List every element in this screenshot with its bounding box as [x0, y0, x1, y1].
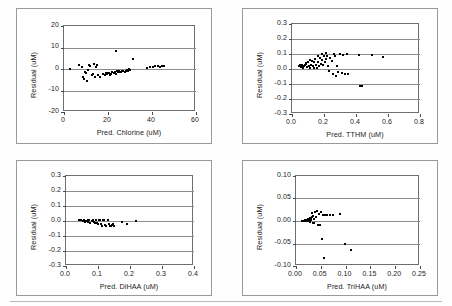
gridline: [292, 39, 420, 40]
data-point: [101, 225, 103, 227]
data-point: [327, 65, 329, 67]
x-tick-label: 0: [47, 116, 79, 123]
y-tick-mark: [63, 206, 66, 207]
figure-sheet: 20100-10-200204060Pred. Chlorine (uM)Res…: [0, 0, 452, 306]
data-point: [350, 249, 352, 251]
panel-trihaa: 0.100.050.00-0.05-0.100.000.050.100.150.…: [242, 160, 438, 296]
data-point: [321, 238, 323, 240]
data-point: [341, 72, 343, 74]
data-point: [323, 55, 325, 57]
x-tick-label: 40: [135, 116, 167, 123]
data-point: [83, 78, 85, 80]
data-point: [313, 222, 315, 224]
gridline: [296, 244, 420, 245]
y-tick-mark: [289, 39, 292, 40]
data-point: [81, 66, 83, 68]
data-point: [335, 75, 337, 77]
data-point: [163, 65, 165, 67]
data-point: [95, 66, 97, 68]
y-tick-mark: [293, 176, 296, 177]
gridline: [66, 206, 194, 207]
x-tick-mark: [196, 112, 197, 115]
data-point: [129, 69, 131, 71]
y-tick-mark: [289, 24, 292, 25]
data-point: [325, 58, 327, 60]
gridline: [66, 191, 194, 192]
gridline: [64, 48, 196, 49]
y-tick-label: 20: [23, 21, 59, 28]
y-tick-mark: [289, 84, 292, 85]
data-point: [339, 53, 341, 55]
y-tick-mark: [293, 244, 296, 245]
y-tick-mark: [293, 221, 296, 222]
data-point: [314, 58, 316, 60]
x-tick-mark: [420, 114, 421, 117]
plot-area: [291, 23, 419, 113]
y-tick-mark: [63, 251, 66, 252]
y-axis-label: Residual (uM): [29, 204, 38, 250]
data-point: [97, 223, 99, 225]
data-point: [89, 222, 91, 224]
data-point: [326, 55, 328, 57]
data-point: [85, 72, 87, 74]
data-point: [337, 71, 339, 73]
y-tick-mark: [61, 48, 64, 49]
y-tick-label: 0.05: [255, 193, 291, 200]
data-point: [324, 61, 326, 63]
data-point: [146, 67, 148, 69]
data-point: [311, 212, 313, 214]
data-point: [339, 213, 341, 215]
data-point: [105, 225, 107, 227]
y-tick-label: -0.3: [25, 261, 61, 268]
data-point: [115, 73, 117, 75]
panel-dihaa: 0.30.20.10.0-0.1-0.2-0.30.00.10.20.30.4P…: [16, 160, 212, 296]
plot-area: [63, 25, 195, 111]
data-point: [328, 70, 330, 72]
data-point: [313, 67, 315, 69]
x-tick-label: 0.3: [145, 270, 177, 277]
x-tick-mark: [356, 114, 357, 117]
y-tick-label: -0.10: [255, 261, 291, 268]
y-tick-mark: [289, 54, 292, 55]
panel-chlorine: 20100-10-200204060Pred. Chlorine (uM)Res…: [16, 8, 212, 144]
data-point: [149, 66, 151, 68]
data-point: [99, 219, 101, 221]
x-tick-mark: [130, 266, 131, 269]
data-point: [342, 54, 344, 56]
data-point: [336, 65, 338, 67]
data-point: [89, 65, 91, 67]
y-tick-label: 0.3: [251, 19, 287, 26]
data-point: [135, 220, 137, 222]
gridline: [296, 198, 420, 199]
y-tick-label: -20: [23, 107, 59, 114]
data-point: [318, 213, 320, 215]
data-point: [309, 221, 311, 223]
x-tick-label: 0.0: [275, 118, 307, 125]
x-tick-label: 0.6: [371, 118, 403, 125]
y-axis-label: Residual (uM): [255, 52, 264, 98]
x-tick-label: 0.2: [113, 270, 145, 277]
y-tick-mark: [61, 69, 64, 70]
x-tick-mark: [370, 266, 371, 269]
data-point: [358, 54, 360, 56]
y-tick-mark: [289, 69, 292, 70]
gridline: [292, 54, 420, 55]
gridline: [66, 236, 194, 237]
data-point: [329, 214, 331, 216]
x-tick-mark: [395, 266, 396, 269]
data-point: [99, 76, 101, 78]
data-point: [87, 69, 89, 71]
y-tick-mark: [61, 91, 64, 92]
data-point: [126, 223, 128, 225]
data-point: [323, 257, 325, 259]
gridline: [66, 251, 194, 252]
data-point: [315, 64, 317, 66]
data-point: [325, 52, 327, 54]
data-point: [371, 54, 373, 56]
y-tick-label: -0.3: [251, 109, 287, 116]
x-tick-mark: [388, 114, 389, 117]
data-point: [361, 85, 363, 87]
y-tick-mark: [63, 221, 66, 222]
x-tick-mark: [98, 266, 99, 269]
x-tick-label: 0.4: [177, 270, 209, 277]
